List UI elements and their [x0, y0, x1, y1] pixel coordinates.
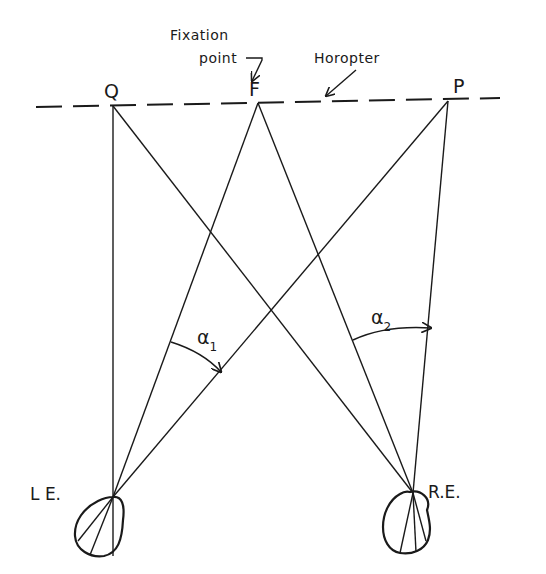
left-eye-icon [75, 497, 124, 556]
point-p-label: P [453, 77, 464, 96]
alpha1-symbol: α [197, 326, 210, 348]
alpha1-label: α1 [197, 328, 217, 347]
point-q-label: Q [104, 82, 119, 101]
point-f-label: F [249, 80, 260, 99]
alpha2-subscript: 2 [384, 320, 392, 334]
alpha2-label: α2 [371, 308, 391, 327]
alpha1-subscript: 1 [210, 340, 218, 354]
left-eye-label: L E. [30, 486, 61, 503]
right-eye-icon [383, 491, 430, 553]
horopter-pointer-arrow [326, 70, 356, 96]
alpha2-symbol: α [371, 306, 384, 328]
fixation-label-line2: point [199, 51, 237, 65]
horopter-label: Horopter [314, 51, 380, 65]
alpha2-arc [353, 328, 431, 341]
fixation-label-line1: Fixation [170, 28, 229, 42]
right-eye-label: R.E. [428, 484, 461, 501]
